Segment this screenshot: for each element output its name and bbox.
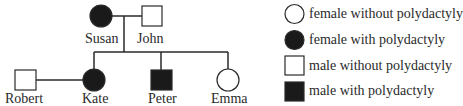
label-john: John (137, 32, 163, 46)
legend-filled-square-icon (285, 82, 304, 101)
susan-affected-female-symbol (90, 5, 112, 27)
label-emma: Emma (211, 92, 248, 106)
emma-unaffected-female-symbol (217, 69, 239, 91)
connector-lines (36, 16, 228, 80)
label-peter: Peter (148, 92, 177, 106)
john-unaffected-male-symbol (142, 6, 162, 26)
legend-open-circle-icon (285, 5, 304, 24)
legend-label-female-affected: female with polydactyly (309, 33, 445, 47)
label-susan: Susan (85, 32, 118, 46)
label-robert: Robert (5, 92, 43, 106)
kate-affected-female-symbol (83, 69, 105, 91)
legend-label-female-unaffected: female without polydactyly (309, 7, 463, 21)
legend-open-square-icon (285, 56, 304, 75)
legend-filled-circle-icon (285, 31, 304, 50)
legend-label-male-unaffected: male without polydactyly (309, 59, 452, 73)
peter-affected-male-symbol (151, 70, 172, 90)
robert-unaffected-male-symbol (15, 70, 36, 90)
label-kate: Kate (82, 92, 108, 106)
legend-label-male-affected: male with polydactyly (309, 84, 434, 98)
